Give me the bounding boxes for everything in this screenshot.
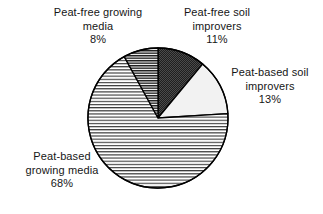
slice-label-peat-free-growing-media: Peat-free growing media 8% [34,6,162,47]
label-value: 11% [164,33,270,47]
label-line-2: improvers [164,20,270,34]
label-line-1: Peat-free soil [164,6,270,20]
label-value: 13% [218,93,322,107]
label-line-1: Peat-based [2,150,122,164]
pie-chart-figure: Peat-free growing media 8% Peat-free soi… [0,0,323,214]
slice-label-peat-free-soil-improvers: Peat-free soil improvers 11% [164,6,270,47]
label-value: 68% [2,177,122,191]
slice-label-peat-based-soil-improvers: Peat-based soil improvers 13% [218,66,322,107]
label-line-2: growing media [2,164,122,178]
label-line-1: Peat-free growing [34,6,162,20]
slice-label-peat-based-growing-media: Peat-based growing media 68% [2,150,122,191]
label-line-2: media [34,20,162,34]
label-line-1: Peat-based soil [218,66,322,80]
label-value: 8% [34,33,162,47]
label-line-2: improvers [218,80,322,94]
